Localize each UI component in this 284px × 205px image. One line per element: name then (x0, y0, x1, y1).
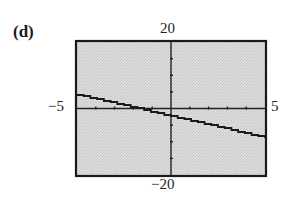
plot-area (76, 41, 266, 176)
graph-window (0, 0, 284, 205)
